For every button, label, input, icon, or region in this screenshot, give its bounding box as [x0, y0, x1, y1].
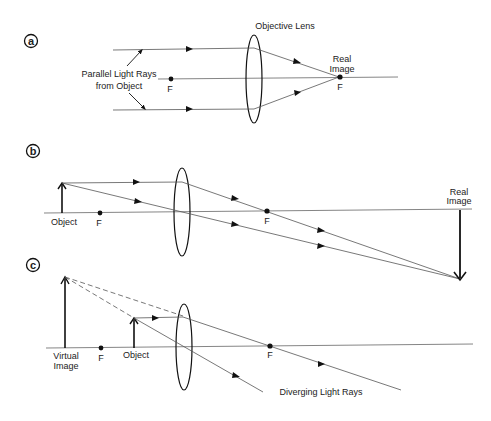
panel-b-label-badge: b: [27, 145, 40, 158]
arrowhead-icon: [186, 106, 193, 112]
arrowhead-icon: [231, 221, 239, 227]
image-label-line1-a: Real: [333, 54, 352, 64]
virtual-ray-upper-c: [65, 277, 183, 316]
ray-central-b: [62, 183, 460, 279]
arrowhead-icon: [133, 179, 140, 185]
panel-a-label: a: [28, 35, 35, 47]
virtual-ray-lower-c: [65, 277, 134, 318]
arrowhead-icon: [317, 227, 325, 233]
focal-point-right-a: [337, 74, 342, 79]
object-label-c: Object: [123, 350, 150, 360]
panel-b: b Object F F Real Image: [27, 145, 473, 281]
panel-a: a Parallel Light Rays from Object F Obje…: [25, 21, 399, 123]
image-label-line2-b: Image: [446, 196, 471, 206]
object-label-b: Object: [51, 217, 78, 227]
arrowhead-icon: [318, 361, 325, 367]
focal-label-left-b: F: [96, 218, 102, 228]
arrowhead-icon: [232, 372, 240, 378]
focal-label-right-a: F: [337, 82, 343, 92]
arrowhead-icon: [293, 58, 301, 64]
ray-refracted-c: [183, 317, 401, 390]
rays-label-line1: Parallel Light Rays: [81, 69, 157, 79]
arrowhead-icon: [152, 315, 159, 321]
arrowhead-icon: [186, 46, 193, 52]
virtual-label-line2: Image: [53, 361, 78, 371]
ray-top-a: [113, 48, 254, 50]
diverging-rays-label: Diverging Light Rays: [279, 387, 363, 397]
focal-point-right-b: [264, 208, 269, 213]
ray-central-c: [134, 318, 263, 392]
optical-axis-b: [44, 209, 472, 213]
arrowhead-icon: [294, 90, 301, 96]
focal-point-left-b: [98, 211, 103, 216]
lens-ray-diagram-figure: a Parallel Light Rays from Object F Obje…: [0, 0, 491, 421]
image-label-line2-a: Image: [329, 64, 354, 74]
arrowhead-icon: [134, 198, 142, 204]
focal-label-right-b: F: [264, 216, 270, 226]
lens-label: Objective Lens: [255, 21, 315, 31]
panel-a-label-badge: a: [25, 35, 38, 48]
ray-bottom-a: [113, 109, 254, 110]
panel-b-label: b: [30, 145, 37, 157]
rays-label-line2: from Object: [96, 81, 143, 91]
ray-parallel-b: [62, 182, 182, 183]
focal-label-left-c: F: [98, 353, 104, 363]
focal-point-right-c: [267, 343, 272, 348]
arrowhead-icon: [317, 243, 325, 249]
optical-axis-a: [158, 77, 398, 79]
focal-label-right-c: F: [267, 350, 273, 360]
pointer-arrow-up-icon: [127, 51, 141, 66]
focal-label-left-a: F: [167, 84, 173, 94]
focal-point-left-a: [169, 77, 174, 82]
pointer-arrow-down-icon: [129, 93, 144, 108]
virtual-label-line1: Virtual: [53, 351, 78, 361]
panel-c-label-badge: c: [27, 259, 40, 272]
panel-c-label: c: [30, 259, 36, 271]
panel-c: c Virtual Image F Object F Diverging Lig…: [27, 259, 474, 398]
optical-axis-c: [46, 344, 473, 348]
focal-point-left-c: [99, 346, 104, 351]
